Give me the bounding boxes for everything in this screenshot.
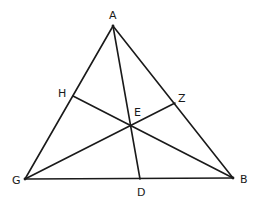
label-d: D (137, 186, 145, 199)
side-GB-line (25, 178, 233, 179)
vertex-a-dot (112, 25, 115, 28)
vertex-dots-group (24, 25, 235, 181)
label-e: E (134, 106, 141, 119)
vertex-b-dot (232, 177, 235, 180)
label-g: G (12, 174, 21, 187)
cevian-AD-line (113, 26, 140, 179)
triangle-diagram: AHZEGBD (0, 0, 257, 205)
label-a: A (109, 9, 117, 22)
segments-group (25, 26, 233, 179)
label-z: Z (178, 92, 186, 105)
label-h: H (58, 87, 66, 100)
vertex-g-dot (24, 178, 27, 181)
cevian-HB-line (73, 96, 233, 178)
labels-group: AHZEGBD (12, 9, 248, 199)
side-AB-line (113, 26, 233, 178)
label-b: B (240, 173, 248, 186)
